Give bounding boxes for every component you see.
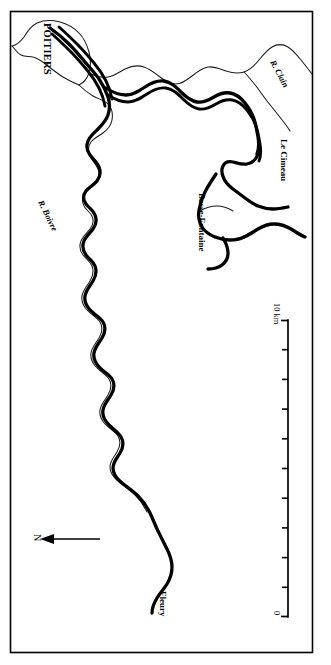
river-branch-le-cimeau [222,154,288,209]
label-river-boivre: R. Boivre [36,198,60,233]
scale-bar-max-label: 10 km [272,303,281,325]
boivre-valley-edge [79,85,147,512]
scale-bar-min-label: 0 [272,611,281,615]
river-branch-east-tail [244,224,305,237]
river-branch-basse-fontaine-spur [208,238,228,269]
map-frame [11,12,313,653]
label-le-cimeau: Le Cimeau [279,139,289,181]
map-figure: POITIERS R. Clain R. Boivre Le Cimeau Ba… [0,0,331,665]
river-clain-course-parallel [108,88,261,161]
label-basse-fontaine: Basse-Fontaine [197,193,207,252]
north-arrow: N [32,534,100,544]
label-poitiers: POITIERS [42,23,53,75]
river-clain-course [106,81,259,154]
north-arrow-label: N [32,534,43,541]
river-boivre-course [50,28,172,613]
scale-bar: 10 km 0 [272,303,288,617]
map-canvas: POITIERS R. Clain R. Boivre Le Cimeau Ba… [0,0,331,665]
label-fleury: Fleury [158,591,168,617]
label-river-clain: R. Clain [268,57,291,89]
